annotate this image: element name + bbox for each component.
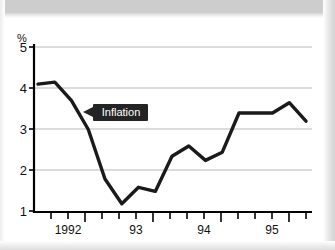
y-tick-label-5: 5 — [20, 40, 27, 55]
y-tick-label-3: 3 — [20, 122, 27, 137]
y-tick-label-4: 4 — [20, 81, 27, 96]
x-tick-label-1992: 1992 — [55, 223, 82, 237]
chart-figure: % 5 4 3 2 1 — [0, 0, 335, 250]
inflation-line-chart: % 5 4 3 2 1 — [0, 0, 335, 250]
series-line-inflation-render — [38, 82, 306, 204]
y-axis-tick-labels: 5 4 3 2 1 — [20, 40, 27, 219]
callout-label: Inflation — [102, 106, 141, 118]
y-tick-label-1: 1 — [20, 204, 27, 219]
x-tick-label-93: 93 — [129, 223, 143, 237]
x-tick-label-95: 95 — [265, 223, 279, 237]
x-axis-tick-labels: 1992 93 94 95 — [55, 223, 279, 237]
y-tick-label-2: 2 — [20, 163, 27, 178]
annotation-inflation: Inflation — [83, 104, 148, 121]
x-tick-label-94: 94 — [197, 223, 211, 237]
x-axis-tickmarks — [51, 212, 306, 222]
